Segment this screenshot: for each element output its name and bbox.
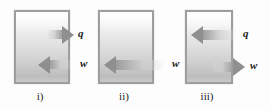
thermodynamics-figure: q w i) w ii) q w [0,0,270,110]
arrow-head [62,26,74,44]
arrow-head [233,58,245,76]
panel-caption-i: i) [14,90,66,102]
work-arrow-label-ii: w [172,58,179,69]
panel-caption-iii: iii) [185,90,229,102]
heat-arrow-i [46,30,74,39]
arrow-tail [46,30,63,39]
heat-arrow-iii [191,30,235,40]
system-box-iii [185,10,233,84]
arrow-head [104,56,116,74]
panel-caption-ii: ii) [98,90,150,102]
work-arrow-label-iii: w [250,60,257,71]
work-arrow-label-i: w [80,58,87,69]
arrow-head [38,56,50,74]
work-arrow-iii [213,62,245,72]
arrow-tail [49,60,70,69]
work-arrow-ii [104,60,164,70]
heat-arrow-label-i: q [78,28,84,39]
heat-arrow-label-iii: q [243,28,249,39]
arrow-head [191,26,203,44]
work-arrow-i [38,60,70,69]
arrow-tail [213,62,234,72]
arrow-tail [202,30,235,40]
arrow-tail [115,60,164,70]
box-highlight [100,12,152,33]
